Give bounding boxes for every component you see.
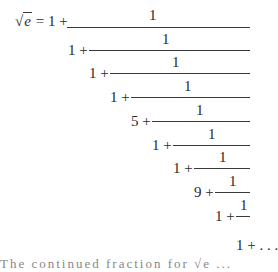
fraction-bar-2 bbox=[89, 50, 250, 51]
numerator-9: 1 bbox=[240, 198, 248, 213]
numerator-6: 1 bbox=[208, 127, 216, 142]
clipped-text-line: The continued fraction for √e ... bbox=[0, 256, 232, 272]
numerator-7: 1 bbox=[219, 150, 227, 165]
term-6: 1 + bbox=[173, 161, 193, 176]
fraction-bar-4 bbox=[131, 97, 250, 98]
fraction-bar-9 bbox=[236, 216, 250, 217]
numerator-3: 1 bbox=[172, 55, 180, 70]
term-3: 1 + bbox=[110, 90, 130, 105]
numerator-4: 1 bbox=[184, 79, 192, 94]
fraction-bar-5 bbox=[152, 121, 250, 122]
numerator-1: 1 bbox=[149, 8, 157, 23]
final-term: 1 + . . . bbox=[236, 238, 278, 253]
fraction-bar-6 bbox=[173, 145, 250, 146]
fraction-bar-8 bbox=[215, 192, 250, 193]
numerator-2: 1 bbox=[162, 32, 170, 47]
term-1: 1 + bbox=[68, 43, 88, 58]
sqrt-e: √e bbox=[15, 14, 32, 29]
numerator-8: 1 bbox=[229, 174, 237, 189]
fraction-bar-7 bbox=[194, 168, 250, 169]
fraction-bar-3 bbox=[110, 73, 250, 74]
leading-term: 1 + bbox=[48, 13, 68, 29]
equals-sign: = bbox=[36, 13, 44, 29]
term-8: 1 + bbox=[215, 209, 235, 224]
fraction-bar-1 bbox=[67, 27, 250, 28]
term-7: 9 + bbox=[194, 185, 214, 200]
numerator-5: 1 bbox=[196, 103, 204, 118]
term-2: 1 + bbox=[89, 66, 109, 81]
equation-lhs: √e = 1 + bbox=[15, 14, 68, 29]
term-5: 1 + bbox=[152, 138, 172, 153]
term-4: 5 + bbox=[131, 114, 151, 129]
